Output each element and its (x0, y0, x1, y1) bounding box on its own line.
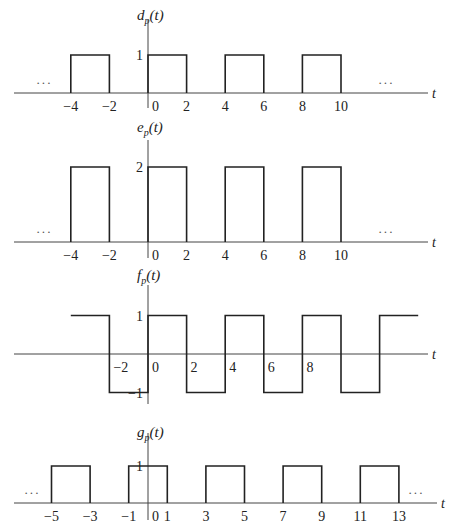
ellipsis-left: ··· (36, 75, 52, 90)
x-tick-label: 0 (152, 360, 159, 375)
x-tick-label: −5 (44, 509, 59, 524)
x-tick-label: 10 (334, 99, 348, 114)
x-tick-label: 10 (334, 248, 348, 263)
x-tick-label: 2 (183, 248, 190, 263)
periodic-signals-figure: dp(t)t1−4−20246810······ep(t)t2−4−202468… (0, 0, 451, 526)
x-tick-label: 13 (392, 509, 406, 524)
plot-gp: gp(t)t1−5−3−10135791113······ (14, 424, 446, 524)
y-axis-label: gp(t) (137, 424, 164, 443)
x-tick-label: 4 (222, 248, 229, 263)
signal-waveform (71, 55, 341, 93)
x-tick-label: 0 (152, 509, 159, 524)
ellipsis-right: ··· (378, 75, 394, 90)
plot-fp: fp(t)t1−1−202468 (14, 267, 437, 404)
x-tick-label: 4 (222, 99, 229, 114)
x-tick-label: 4 (229, 360, 236, 375)
x-axis-label: t (441, 496, 446, 511)
x-tick-label: −1 (121, 509, 136, 524)
x-axis-label: t (432, 347, 437, 362)
x-tick-label: 6 (268, 360, 275, 375)
x-tick-label: 8 (299, 248, 306, 263)
y-tick-label: 1 (136, 309, 143, 324)
x-tick-label: 7 (280, 509, 287, 524)
x-axis-label: t (432, 235, 437, 250)
x-tick-label: −2 (113, 360, 128, 375)
signal-waveform (52, 466, 399, 503)
x-tick-label: 3 (202, 509, 209, 524)
x-tick-label: 0 (152, 99, 159, 114)
y-axis-label: ep(t) (137, 119, 163, 138)
y-tick-label: 1 (136, 48, 143, 63)
x-tick-label: 1 (164, 509, 171, 524)
y-axis-label: dp(t) (137, 7, 164, 26)
x-tick-label: 8 (306, 360, 313, 375)
x-tick-label: −2 (102, 99, 117, 114)
ellipsis-right: ··· (378, 224, 394, 239)
x-tick-label: −4 (63, 99, 78, 114)
y-tick-label: 2 (136, 160, 143, 175)
ellipsis-right: ··· (408, 485, 424, 500)
x-tick-label: 5 (241, 509, 248, 524)
x-tick-label: −4 (63, 248, 78, 263)
x-tick-label: 0 (152, 248, 159, 263)
y-axis-label: fp(t) (137, 267, 160, 286)
plot-dp: dp(t)t1−4−20246810······ (14, 7, 437, 114)
ellipsis-left: ··· (24, 485, 40, 500)
x-tick-label: 9 (318, 509, 325, 524)
x-axis-label: t (432, 86, 437, 101)
x-tick-label: 8 (299, 99, 306, 114)
plot-ep: ep(t)t2−4−20246810······ (14, 119, 437, 263)
x-tick-label: 2 (191, 360, 198, 375)
x-tick-label: −3 (83, 509, 98, 524)
x-tick-label: 2 (183, 99, 190, 114)
y-tick-label: −1 (128, 386, 143, 401)
x-tick-label: −2 (102, 248, 117, 263)
ellipsis-left: ··· (36, 224, 52, 239)
x-tick-label: 11 (354, 509, 367, 524)
x-tick-label: 6 (260, 99, 267, 114)
x-tick-label: 6 (260, 248, 267, 263)
y-tick-label: 1 (136, 459, 143, 474)
signal-waveform (71, 167, 341, 242)
